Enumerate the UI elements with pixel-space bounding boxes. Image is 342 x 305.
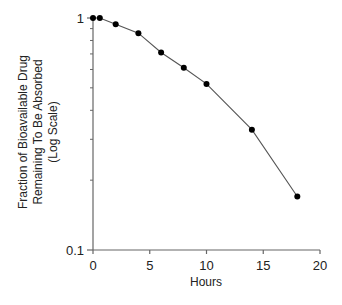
data-point	[97, 15, 103, 21]
data-point	[113, 21, 119, 27]
data-point	[294, 194, 300, 200]
data-line	[93, 18, 297, 197]
data-point	[181, 65, 187, 71]
y-axis: 0.11	[66, 11, 93, 258]
data-point	[135, 30, 141, 36]
data-points	[90, 15, 300, 200]
y-tick-label: 0.1	[66, 243, 84, 258]
x-axis-title: Hours	[190, 275, 222, 289]
y-axis-title-line: (Log Scale)	[46, 101, 60, 162]
y-axis-title: Fraction of Bioavailable DrugRemaining T…	[16, 55, 60, 209]
series-line	[93, 18, 297, 197]
chart: 0.11 05101520 Hours Fraction of Bioavail…	[0, 0, 342, 305]
y-axis-title-line: Remaining To Be Absorbed	[31, 59, 45, 204]
data-point	[249, 127, 255, 133]
x-tick-label: 5	[146, 258, 153, 273]
data-point	[90, 15, 96, 21]
data-point	[204, 81, 210, 87]
data-point	[158, 50, 164, 56]
y-axis-title-line: Fraction of Bioavailable Drug	[16, 55, 30, 209]
x-axis: 05101520	[89, 250, 327, 273]
x-tick-label: 20	[313, 258, 327, 273]
x-tick-label: 15	[256, 258, 270, 273]
x-tick-label: 10	[199, 258, 213, 273]
x-tick-label: 0	[89, 258, 96, 273]
y-tick-label: 1	[77, 11, 84, 26]
